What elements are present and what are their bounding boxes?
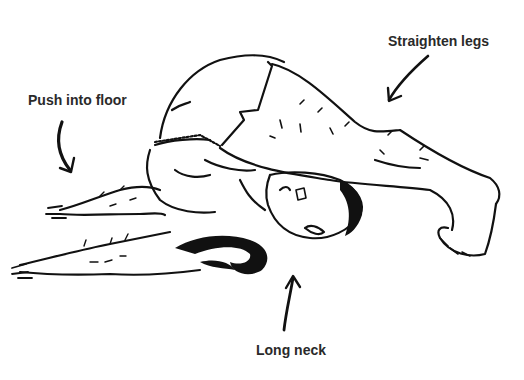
arrow-neck-icon xyxy=(284,276,300,330)
plow-pose-figure xyxy=(0,0,524,380)
arrow-legs-icon xyxy=(388,56,428,101)
illustration-canvas: Push into floor Straighten legs Long nec… xyxy=(0,0,524,380)
hair-shape xyxy=(340,180,363,236)
annotation-long-neck: Long neck xyxy=(256,342,326,358)
arrow-push-icon xyxy=(59,122,74,172)
annotation-straighten-legs: Straighten legs xyxy=(388,33,489,49)
tattoo-shape xyxy=(175,236,267,274)
annotation-push-into-floor: Push into floor xyxy=(28,92,127,108)
